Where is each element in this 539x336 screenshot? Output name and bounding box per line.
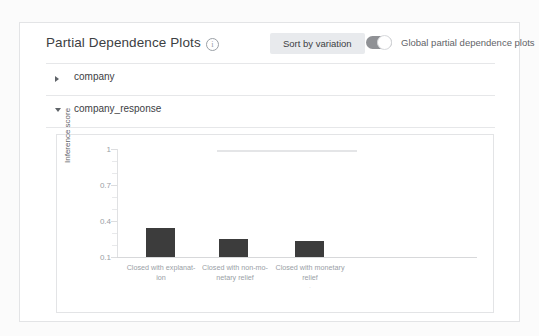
divider-header: [46, 63, 495, 64]
info-icon[interactable]: i: [206, 38, 219, 51]
x-label-line: netary relief: [197, 273, 273, 283]
bar-1[interactable]: [219, 239, 248, 257]
global-pdp-toggle-group: Global partial dependence plots: [366, 36, 535, 49]
y-tick-label: 0.4: [100, 217, 111, 226]
x-label-line: Closed with monetary: [272, 263, 348, 273]
x-label-line: relief: [272, 273, 348, 283]
x-axis-line: [117, 257, 477, 258]
accordion-label-company-response: company_response: [74, 103, 161, 114]
x-tick-label-0: Closed with explanat- ion: [123, 263, 199, 282]
y-axis-ticks: 1 0.7 0.4 0.1: [79, 135, 111, 312]
y-tick-label: 0.7: [100, 181, 111, 190]
chevron-right-icon: [55, 76, 59, 82]
x-label-overflow-marker: ·: [272, 284, 348, 291]
bar-2[interactable]: [295, 241, 324, 258]
divider-accordion-1: [46, 95, 495, 96]
accordion-row-company-response[interactable]: company_response: [46, 98, 495, 126]
y-tick-label: 0.1: [100, 253, 111, 262]
y-axis-label: Inference score: [63, 108, 72, 163]
toggle-knob: [377, 35, 392, 50]
global-pdp-toggle[interactable]: [366, 36, 392, 49]
x-label-line: Closed with explanat-: [123, 263, 199, 273]
chart-container: Inference score 1 0.7 0.4 0.1: [56, 134, 494, 313]
x-label-line: Closed with non-mo-: [197, 263, 273, 273]
divider-accordion-2: [46, 127, 495, 128]
card-header: Partial Dependence Plots i Sort by varia…: [46, 31, 496, 61]
screen-root: Partial Dependence Plots i Sort by varia…: [0, 0, 539, 336]
reference-line: [217, 150, 357, 152]
bar-0[interactable]: [146, 228, 175, 257]
x-tick-label-1: Closed with non-mo- netary relief: [197, 263, 273, 282]
accordion-label-company: company: [74, 71, 115, 82]
bar-chart: Inference score 1 0.7 0.4 0.1: [57, 135, 493, 312]
x-tick-label-2: Closed with monetary relief: [272, 263, 348, 282]
accordion-row-company[interactable]: company: [46, 66, 495, 94]
page-title: Partial Dependence Plots: [46, 35, 201, 50]
global-pdp-toggle-label: Global partial dependence plots: [401, 37, 535, 48]
y-axis-line: [117, 149, 118, 257]
chevron-down-icon: [55, 108, 61, 112]
x-label-line: ion: [123, 273, 199, 283]
sort-by-variation-button[interactable]: Sort by variation: [270, 33, 365, 54]
partial-dependence-card: Partial Dependence Plots i Sort by varia…: [19, 22, 520, 322]
